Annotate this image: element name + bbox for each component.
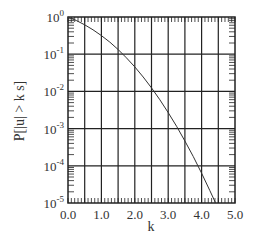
x-tick-label: 2.0 <box>127 207 143 222</box>
y-tick-label: 10-2 <box>44 82 65 99</box>
grid-lines <box>68 17 235 203</box>
x-tick-label: 4.0 <box>193 207 209 222</box>
x-tick-label: 0.0 <box>60 207 76 222</box>
x-tick-label: 5.0 <box>227 207 243 222</box>
y-tick-label: 100 <box>47 8 65 25</box>
y-tick-label: 10-4 <box>44 157 65 174</box>
chart: 0.01.02.03.04.05.0 10010-110-210-310-410… <box>0 0 256 245</box>
x-axis-label: k <box>148 219 155 234</box>
y-tick-labels: 10010-110-210-310-410-5 <box>44 8 65 211</box>
x-tick-label: 1.0 <box>93 207 109 222</box>
y-axis-label: P[|u| > k s] <box>12 81 27 142</box>
data-line <box>68 17 216 203</box>
y-tick-label: 10-1 <box>44 45 65 62</box>
y-tick-label: 10-3 <box>44 120 65 137</box>
x-tick-label: 3.0 <box>160 207 176 222</box>
